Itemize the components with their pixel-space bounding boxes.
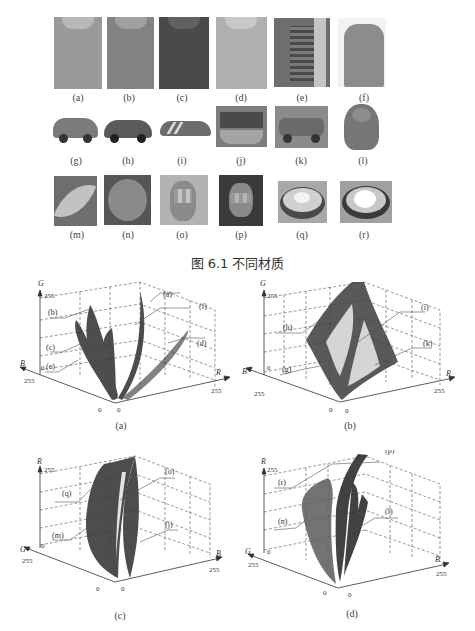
plot-b-axis-left: B [242, 367, 247, 376]
plot-c-label-m: (m) [52, 531, 64, 540]
thumb-label: (n) [98, 229, 158, 240]
thumb-label: (k) [271, 155, 331, 166]
plot-d-label-p: (p) [385, 450, 395, 455]
plot-a-label-a: (a) [163, 290, 172, 299]
thumb-label: (l) [333, 155, 393, 166]
plot-d-axis-right: B [435, 555, 440, 564]
thumb-label: (h) [98, 155, 158, 166]
plot-b-axis-right: R [445, 369, 451, 378]
thumb-p [219, 175, 263, 226]
thumb-q [278, 181, 327, 223]
plot-d: (p) (r) (l) (n) R 255 G 255 0 B 255 0 0 … [240, 450, 475, 631]
thumb-c [159, 17, 209, 89]
plot-a-axis-right: R [215, 368, 221, 377]
thumb-label: (d) [211, 92, 271, 103]
plot-b-caption: (b) [330, 420, 370, 431]
plot-a-axis-vertical: G [38, 280, 44, 288]
plot-b-label-k: (k) [423, 339, 433, 348]
plot-b-label-h: (h) [283, 323, 293, 332]
plot-a-tick-max-vertical: 255 [44, 292, 55, 300]
plot-a-caption: (a) [101, 420, 141, 431]
plot-c-axis-vertical: R [36, 457, 42, 466]
plot-a-label-f: (f) [199, 302, 207, 311]
plot-d-tick-max-vertical: 255 [267, 466, 278, 474]
plot-c-tick-zero-vertical: 0 [41, 542, 45, 550]
plot-a-axis-left: B [20, 359, 25, 368]
plot-a-tick-max-right: 255 [211, 387, 222, 395]
thumb-k [275, 106, 328, 148]
plot-c-label-q: (q) [62, 489, 72, 498]
plot-a-tick-zero-right: 0 [117, 406, 121, 414]
thumb-m [54, 176, 97, 226]
thumb-label: (i) [152, 155, 212, 166]
thumb-j [216, 106, 267, 147]
plot-a-label-d: (d) [197, 339, 207, 348]
plot-b-label-g: (g) [282, 365, 292, 374]
plot-b-tick-max-left: 255 [254, 390, 265, 398]
thumb-r [340, 181, 392, 223]
thumb-label: (e) [272, 92, 332, 103]
thumb-label: (j) [211, 155, 271, 166]
plot-b-tick-max-right: 255 [434, 387, 445, 395]
plot-b-axis-vertical: G [260, 280, 266, 288]
plot-a-tick-zero-left: 0 [98, 406, 102, 414]
figure-caption: 图 6.1 不同材质 [0, 253, 475, 272]
thumb-b [107, 17, 154, 89]
plot-b-tick-max-vertical: 255 [267, 292, 278, 300]
plot-b: (i) (h) (k) (g) G 255 B 255 0 R 255 0 0 … [240, 280, 475, 450]
plot-c-tick-zero-right: 0 [121, 585, 125, 593]
plot-c-axis-left: G [20, 545, 26, 554]
plot-a-label-e: (e) [46, 362, 55, 371]
thumb-label: (b) [99, 92, 159, 103]
plot-b-label-i: (i) [421, 303, 429, 312]
plot-a-tick-max-left: 255 [24, 377, 35, 385]
plot-d-svg: (p) (r) (l) (n) R 255 G 255 0 B 255 0 0 [240, 450, 475, 631]
thumb-i [160, 113, 211, 143]
plot-c-tick-max-vertical: 255 [44, 466, 55, 474]
plot-c-label-j: (j) [165, 520, 173, 529]
plot-b-tick-zero-left: 0 [329, 406, 333, 414]
thumb-label: (f) [334, 92, 394, 103]
plot-d-tick-zero-right: 0 [348, 591, 352, 599]
thumb-d [216, 17, 267, 89]
plot-d-tick-zero-vertical: 0 [267, 548, 271, 556]
plot-d-axis-vertical: R [260, 457, 266, 466]
thumb-h [104, 115, 152, 145]
plot-a: (a) (b) (c) (d) (e) (f) G 255 B 255 0 R … [0, 280, 240, 450]
thumb-label: (o) [152, 229, 212, 240]
plot-c: (o) (q) (j) (m) R 255 G 255 0 B 255 0 0 … [0, 450, 240, 631]
plot-b-tick-zero-right: 0 [345, 407, 349, 415]
plot-c-svg: (o) (q) (j) (m) R 255 G 255 0 B 255 0 0 [0, 450, 240, 631]
plot-c-tick-zero-left: 0 [96, 585, 100, 593]
thumb-label: (c) [152, 92, 212, 103]
thumb-f [338, 18, 386, 87]
plot-d-tick-zero-left: 0 [323, 589, 327, 597]
plot-c-label-o: (o) [165, 467, 175, 476]
thumb-label: (r) [334, 229, 394, 240]
thumb-l [340, 104, 383, 150]
plot-c-axis-right: B [216, 549, 221, 558]
plot-a-label-c: (c) [46, 343, 55, 352]
plot-d-tick-max-right: 255 [436, 570, 447, 578]
plot-c-tick-max-right: 255 [209, 566, 220, 574]
plot-d-label-l: (l) [385, 507, 393, 516]
thumb-label: (g) [46, 155, 106, 166]
thumb-o [160, 175, 208, 225]
plot-d-caption: (d) [332, 608, 372, 619]
plot-d-label-n: (n) [278, 517, 288, 526]
plot-d-tick-max-left: 255 [248, 561, 259, 569]
thumb-a [54, 17, 102, 89]
plot-a-label-b: (b) [48, 308, 58, 317]
plot-d-label-r: (r) [278, 478, 286, 487]
plot-c-caption: (c) [100, 610, 140, 621]
plot-b-tick-zero-vertical: 0 [267, 364, 271, 372]
thumb-e [274, 18, 330, 87]
thumb-label: (p) [211, 229, 271, 240]
thumb-n [104, 175, 151, 225]
thumb-g [53, 112, 98, 146]
thumb-label: (q) [272, 229, 332, 240]
plot-c-tick-max-left: 255 [22, 557, 33, 565]
plot-a-tick-zero-vertical: 0 [41, 364, 45, 372]
plot-d-axis-left: G [245, 547, 251, 556]
